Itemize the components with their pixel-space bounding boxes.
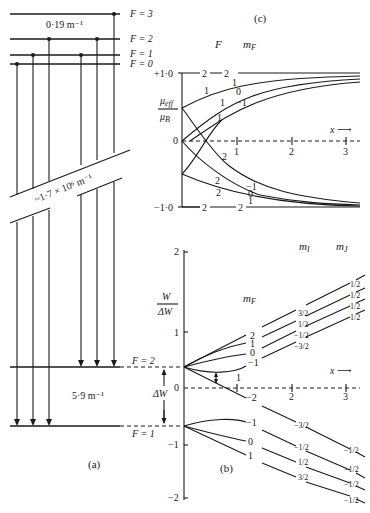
label-f0: F = 0 xyxy=(129,58,153,69)
svg-text:2: 2 xyxy=(222,151,227,162)
label-f1-lower: F = 1 xyxy=(131,428,155,439)
col-mf-header-b: mF xyxy=(243,292,256,306)
b-ylabel-den: ΔW xyxy=(157,306,174,317)
svg-text:1/2: 1/2 xyxy=(298,320,308,329)
svg-text:1: 1 xyxy=(217,112,222,123)
lower-spacing-label: 5·9 m⁻¹ xyxy=(72,390,104,401)
b-ytick-minus1: −1 xyxy=(168,439,179,450)
hyperfine-figure: F = 3 F = 2 F = 1 F = 0 0·19 m⁻¹ ~1·7 × … xyxy=(0,0,370,513)
panel-a-label: (a) xyxy=(88,458,101,471)
c-xlabel: x ⟶ xyxy=(329,124,351,135)
label-f2-upper: F = 2 xyxy=(129,33,153,44)
svg-text:1/2: 1/2 xyxy=(350,291,360,300)
svg-text:2: 2 xyxy=(202,68,207,79)
b-xtick-1: 1 xyxy=(236,372,241,383)
svg-text:−2: −2 xyxy=(246,392,257,403)
svg-text:1/2: 1/2 xyxy=(350,280,360,289)
svg-text:1: 1 xyxy=(248,195,253,206)
svg-text:1: 1 xyxy=(220,97,225,108)
b-ylabel-num: W xyxy=(162,291,172,302)
svg-text:−3/2: −3/2 xyxy=(294,421,309,430)
figure-canvas: F = 3 F = 2 F = 1 F = 0 0·19 m⁻¹ ~1·7 × … xyxy=(0,0,370,513)
svg-text:2: 2 xyxy=(202,202,207,213)
svg-text:−1/2: −1/2 xyxy=(344,446,359,455)
svg-text:−3/2: −3/2 xyxy=(294,342,309,351)
svg-text:1/2: 1/2 xyxy=(350,302,360,311)
svg-text:2: 2 xyxy=(215,175,220,186)
svg-text:0: 0 xyxy=(236,86,241,97)
c-ytick-0: 0 xyxy=(173,135,178,146)
b-xtick-2: 2 xyxy=(289,391,294,402)
b-ytick-0: 0 xyxy=(174,382,179,393)
c-ytick-minus1: −1·0 xyxy=(154,202,173,213)
c-ytick-plus1: +1·0 xyxy=(154,68,173,79)
svg-text:1/2: 1/2 xyxy=(350,313,360,322)
c-xtick-1: 1 xyxy=(234,146,239,157)
svg-text:1: 1 xyxy=(248,450,253,461)
col-mf-header: mF xyxy=(243,38,256,52)
c-xtick-3: 3 xyxy=(343,146,348,157)
panel-c-effective-moment: (c) F mF +1·0 0 −1·0 μeff μB 1 2 3 x ⟶ xyxy=(154,12,360,213)
delta-w-label-a: ΔW xyxy=(152,388,169,399)
svg-text:−1: −1 xyxy=(248,357,259,368)
b-xlabel: x ⟶ xyxy=(329,365,351,376)
b-ytick-minus2: −2 xyxy=(168,492,179,503)
svg-text:1: 1 xyxy=(204,85,209,96)
label-f2-lower: F = 2 xyxy=(131,355,155,366)
svg-text:−1/2: −1/2 xyxy=(344,480,359,489)
svg-text:3/2: 3/2 xyxy=(298,473,308,482)
svg-text:−1/2: −1/2 xyxy=(344,496,359,505)
c-ylabel-num: μeff xyxy=(159,95,175,108)
panel-b-breit-rabi: mI mJ mF 2 1 0 −1 −2 W ΔW 1 2 3 x ⟶ xyxy=(157,240,365,505)
svg-text:1/2: 1/2 xyxy=(298,458,308,467)
svg-text:−1: −1 xyxy=(236,97,247,108)
panel-b-label: (b) xyxy=(220,462,233,475)
upper-spacing-label: 0·19 m⁻¹ xyxy=(46,19,83,30)
label-f3: F = 3 xyxy=(129,8,153,19)
svg-text:2: 2 xyxy=(216,187,221,198)
svg-text:2: 2 xyxy=(238,202,243,213)
svg-text:−1/2: −1/2 xyxy=(294,331,309,340)
svg-text:3/2: 3/2 xyxy=(298,309,308,318)
col-f-header: F xyxy=(214,38,222,50)
b-ytick-1: 1 xyxy=(174,327,179,338)
svg-text:−1/2: −1/2 xyxy=(344,465,359,474)
svg-text:−1: −1 xyxy=(246,417,257,428)
b-ytick-2: 2 xyxy=(174,246,179,257)
c-xtick-2: 2 xyxy=(289,146,294,157)
svg-text:0: 0 xyxy=(248,436,253,447)
svg-text:2: 2 xyxy=(224,68,229,79)
b-xtick-3: 3 xyxy=(343,391,348,402)
svg-text:−1/2: −1/2 xyxy=(294,443,309,452)
panel-c-label: (c) xyxy=(254,12,267,25)
c-ylabel-den: μB xyxy=(159,111,170,124)
col-mj-header: mJ xyxy=(336,240,348,254)
col-mi-header: mI xyxy=(299,240,310,254)
